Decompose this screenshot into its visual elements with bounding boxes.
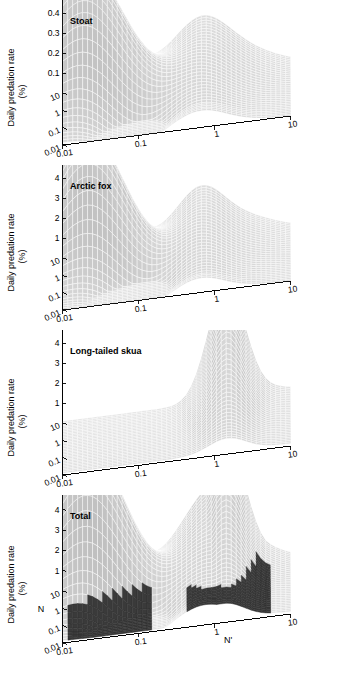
- figure-panel-stack: 0.10.20.30.40.50.61010.10.010.010.1110Da…: [0, 0, 353, 682]
- z-tick-label: 2: [55, 213, 60, 223]
- z-tick-mark: [63, 53, 67, 54]
- y-axis-label: Daily predation rate: [6, 48, 16, 126]
- z-tick-label: 4: [55, 338, 60, 348]
- y-axis-label: Daily predation rate: [6, 545, 16, 623]
- nprime-tick-label: 10: [287, 448, 298, 459]
- nprime-tick-label: 0.1: [134, 468, 147, 480]
- axis-n-line-front: [63, 591, 64, 643]
- nprime-tick-label: 10: [287, 283, 298, 294]
- y-axis-label: Daily predation rate: [6, 378, 16, 456]
- n-tick-label: 0.1: [47, 125, 62, 139]
- z-tick-label: 2: [55, 545, 60, 555]
- n-tick-label: 0.1: [47, 290, 62, 304]
- axis-n-line-front: [63, 423, 64, 475]
- z-tick-mark: [63, 73, 67, 74]
- z-tick-mark: [63, 218, 67, 219]
- n-tick-label: 0.1: [47, 623, 62, 637]
- axis-n-line-front: [63, 258, 64, 310]
- z-tick-mark: [63, 530, 67, 531]
- n-tick-label: 0.1: [47, 455, 62, 469]
- panel-long-tailed-skua: 1234561010.10.010.010.1110Daily predatio…: [0, 330, 353, 495]
- nprime-tick-label: 0.01: [56, 147, 74, 159]
- panel-title: Arctic fox: [70, 181, 112, 191]
- z-tick-label: 3: [55, 358, 60, 368]
- y-axis-units: (%): [17, 414, 27, 428]
- nprime-tick-label: 0.1: [134, 303, 147, 315]
- z-tick-label: 3: [55, 193, 60, 203]
- panel-title: Long-tailed skua: [70, 346, 143, 356]
- panel-total: 1234561010.10.010.010.1110Daily predatio…: [0, 495, 353, 682]
- z-tick-label: 0.4: [48, 8, 60, 18]
- z-tick-mark: [63, 510, 67, 511]
- surface-mesh: [63, 0, 292, 142]
- nprime-tick-label: 10: [287, 118, 298, 129]
- z-tick-label: 1: [55, 398, 60, 408]
- nprime-tick-label: 0.1: [134, 138, 147, 150]
- n-tick-mark: [63, 145, 67, 147]
- n-tick-label: 10: [49, 255, 62, 268]
- panel-stoat: 0.10.20.30.40.50.61010.10.010.010.1110Da…: [0, 0, 353, 165]
- z-tick-mark: [63, 238, 67, 239]
- surface-mesh: [63, 495, 292, 641]
- y-axis-label: Daily predation rate: [6, 213, 16, 291]
- z-tick-label: 0.2: [48, 48, 60, 58]
- panel-arctic-fox: 1234561010.10.010.010.1110Daily predatio…: [0, 165, 353, 330]
- nprime-tick-label: 1: [214, 458, 220, 469]
- z-tick-label: 1: [55, 566, 60, 576]
- n-tick-label: 10: [49, 420, 62, 433]
- n-tick-mark: [63, 475, 67, 477]
- z-tick-mark: [63, 383, 67, 384]
- z-tick-mark: [63, 13, 67, 14]
- nprime-tick-label: 0.1: [134, 636, 147, 648]
- z-tick-label: 0.3: [48, 28, 60, 38]
- nprime-tick-label: 0.01: [56, 477, 74, 489]
- axis-n-line-front: [63, 93, 64, 145]
- z-tick-label: 1: [55, 233, 60, 243]
- z-tick-mark: [63, 178, 67, 179]
- nprime-tick-label: 1: [214, 626, 220, 637]
- z-tick-label: 4: [55, 173, 60, 183]
- panel-title: Stoat: [70, 16, 93, 26]
- z-tick-mark: [63, 198, 67, 199]
- z-tick-mark: [63, 363, 67, 364]
- z-tick-label: 2: [55, 378, 60, 388]
- z-tick-label: 0.1: [48, 68, 60, 78]
- n-tick-label: 1: [53, 437, 62, 448]
- z-tick-mark: [63, 33, 67, 34]
- n-tick-label: 1: [53, 107, 62, 118]
- y-axis-units: (%): [17, 249, 27, 263]
- z-tick-label: 3: [55, 525, 60, 535]
- n-tick-label: 10: [49, 90, 62, 103]
- nprime-tick-label: 0.01: [56, 645, 74, 657]
- n-tick-label: 1: [53, 605, 62, 616]
- nprime-tick-label: 0.01: [56, 312, 74, 324]
- nprime-axis-name: N': [224, 635, 232, 645]
- panel-title: Total: [70, 511, 91, 521]
- z-tick-mark: [63, 550, 67, 551]
- z-tick-label: 4: [55, 505, 60, 515]
- z-tick-mark: [63, 571, 67, 572]
- n-tick-label: 1: [53, 272, 62, 283]
- y-axis-units: (%): [17, 84, 27, 98]
- nprime-tick-label: 1: [214, 128, 220, 139]
- y-axis-units: (%): [17, 581, 27, 595]
- z-tick-mark: [63, 343, 67, 344]
- n-tick-mark: [63, 310, 67, 312]
- nprime-tick-label: 1: [214, 293, 220, 304]
- n-tick-mark: [63, 643, 67, 645]
- nprime-tick-label: 10: [287, 616, 298, 627]
- n-axis-name: N: [38, 604, 45, 614]
- z-tick-mark: [63, 403, 67, 404]
- n-tick-label: 10: [49, 588, 62, 601]
